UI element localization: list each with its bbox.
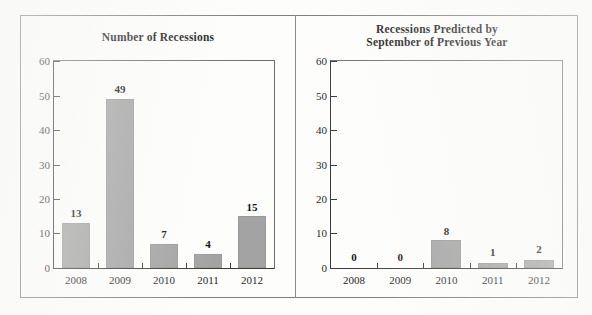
y-axis-label-r20: 20 — [316, 193, 327, 205]
bar-value-r2009: 0 — [398, 251, 404, 263]
bar-slot-2009: 49 2009 — [98, 61, 142, 268]
x-axis-label-r2012: 2012 — [528, 274, 550, 286]
x-axis-label-r2011: 2011 — [482, 274, 504, 286]
bar-slot-2010: 7 2010 — [142, 61, 186, 268]
bar-r2010[interactable] — [431, 240, 461, 268]
x-axis-label-2010: 2010 — [153, 274, 175, 286]
chart-panel-left: Number of Recessions 0 10 20 30 40 — [21, 15, 295, 298]
y-axis-label-r40: 40 — [316, 124, 327, 136]
bar-value-r2008: 0 — [351, 251, 357, 263]
bar-value-2012: 15 — [247, 201, 258, 213]
bar-slot-r2012: 2 2012 — [516, 61, 562, 268]
bar-2011[interactable] — [194, 254, 222, 268]
bar-value-2011: 4 — [205, 238, 211, 250]
y-axis-label-40: 40 — [39, 124, 50, 136]
x-axis-label-2012: 2012 — [241, 274, 263, 286]
chart-title-left-line-1: Number of Recessions — [21, 31, 295, 44]
y-axis-label-r30: 30 — [316, 159, 327, 171]
y-axis-label-50: 50 — [39, 90, 50, 102]
y-axis-label-60: 60 — [39, 55, 50, 67]
x-axis-label-2008: 2008 — [65, 274, 87, 286]
y-axis-label-10: 10 — [39, 227, 50, 239]
bar-slot-r2009: 0 2009 — [377, 61, 423, 268]
plot-area-right: 0 10 20 30 40 50 — [330, 60, 563, 269]
bar-slot-r2011: 1 2011 — [470, 61, 516, 268]
bars-layer-left: 13 2008 49 2009 7 2010 4 2011 — [54, 61, 274, 268]
bar-slot-r2008: 0 2008 — [331, 61, 377, 268]
bar-value-2009: 49 — [115, 83, 126, 95]
chart-title-right-line-2: September of Previous Year — [296, 36, 578, 49]
x-axis-label-r2008: 2008 — [343, 274, 365, 286]
bar-2012[interactable] — [238, 216, 266, 268]
y-axis-label-r10: 10 — [316, 227, 327, 239]
bar-value-r2011: 1 — [490, 246, 496, 258]
chart-title-left: Number of Recessions — [21, 31, 295, 44]
bars-layer-right: 0 2008 0 2009 8 2010 1 2011 — [331, 61, 562, 268]
y-axis-label-30: 30 — [39, 159, 50, 171]
y-axis-label-r60: 60 — [316, 55, 327, 67]
y-axis-label-0: 0 — [45, 262, 51, 274]
chart-title-right-line-1: Recessions Predicted by — [296, 23, 578, 36]
y-tick-mark-0 — [54, 268, 60, 269]
bar-2009[interactable] — [106, 99, 134, 268]
y-axis-label-r50: 50 — [316, 90, 327, 102]
bar-slot-2011: 4 2011 — [186, 61, 230, 268]
bar-2010[interactable] — [150, 244, 178, 268]
figure-two-panel-bar-charts: Number of Recessions 0 10 20 30 40 — [0, 0, 592, 315]
chart-panel-right: Recessions Predicted by September of Pre… — [296, 15, 578, 298]
x-axis-label-r2010: 2010 — [435, 274, 457, 286]
y-axis-label-r0: 0 — [322, 262, 328, 274]
bar-value-r2012: 2 — [536, 243, 542, 255]
plot-area-left: 0 10 20 30 40 50 — [53, 60, 275, 269]
y-tick-mark-r0 — [331, 268, 337, 269]
bar-slot-r2010: 8 2010 — [423, 61, 469, 268]
bar-value-2010: 7 — [161, 228, 167, 240]
x-axis-label-r2009: 2009 — [389, 274, 411, 286]
chart-title-right: Recessions Predicted by September of Pre… — [296, 23, 578, 49]
y-axis-label-20: 20 — [39, 193, 50, 205]
x-axis-label-2011: 2011 — [197, 274, 219, 286]
bar-value-2008: 13 — [71, 207, 82, 219]
bar-slot-2012: 15 2012 — [230, 61, 274, 268]
bar-value-r2010: 8 — [444, 225, 450, 237]
bar-r2012[interactable] — [524, 260, 554, 268]
x-axis-label-2009: 2009 — [109, 274, 131, 286]
bar-r2011[interactable] — [478, 263, 508, 268]
bar-2008[interactable] — [62, 223, 90, 268]
bar-slot-2008: 13 2008 — [54, 61, 98, 268]
